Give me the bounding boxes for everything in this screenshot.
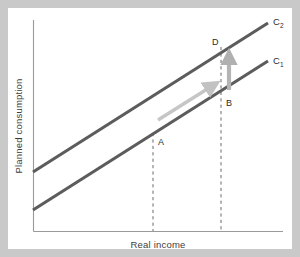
curve-label-c1-text: C (273, 55, 280, 66)
consumption-function-chart: A B D C 2 C 1 Real income Planned consum… (0, 0, 300, 257)
point-label-b: B (226, 98, 232, 108)
x-axis-title: Real income (130, 239, 185, 250)
plot-axes (34, 20, 284, 232)
point-label-a: A (158, 137, 164, 147)
curve-label-c2-text: C (273, 16, 280, 27)
curve-c2-line (33, 23, 268, 172)
point-label-d: D (212, 37, 219, 47)
curve-label-c2: C 2 (273, 16, 284, 29)
curve-label-c1: C 1 (273, 55, 284, 68)
curve-label-c1-subscript: 1 (280, 61, 284, 68)
curve-c1-line (33, 61, 268, 210)
curve-label-c2-subscript: 2 (280, 22, 284, 29)
y-axis-title: Planned consumption (13, 78, 24, 173)
